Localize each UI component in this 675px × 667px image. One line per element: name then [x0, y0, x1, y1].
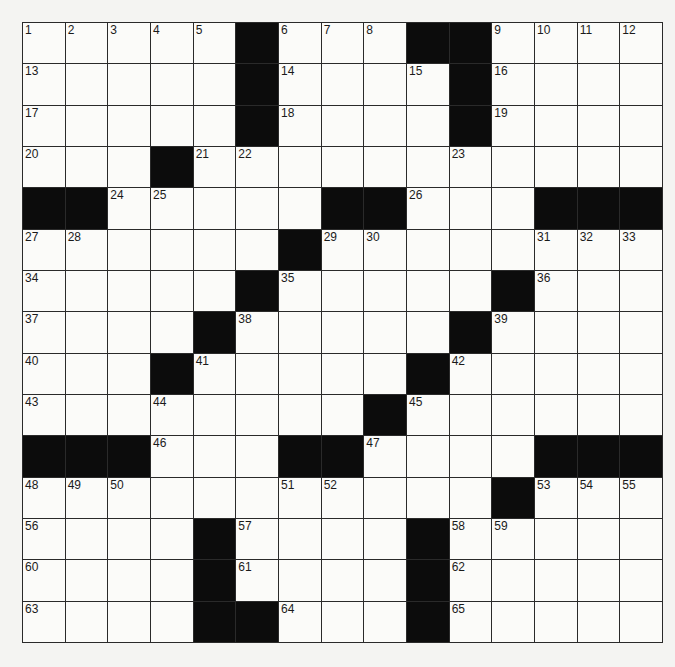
grid-cell[interactable]	[236, 478, 278, 518]
grid-cell[interactable]: 40	[23, 354, 65, 394]
grid-cell[interactable]	[578, 354, 620, 394]
grid-cell[interactable]	[66, 147, 108, 187]
grid-cell[interactable]	[450, 271, 492, 311]
grid-cell[interactable]: 27	[23, 230, 65, 270]
grid-cell[interactable]	[151, 478, 193, 518]
grid-cell[interactable]	[407, 271, 449, 311]
grid-cell[interactable]	[450, 478, 492, 518]
grid-cell[interactable]	[407, 230, 449, 270]
grid-cell[interactable]: 26	[407, 188, 449, 228]
grid-cell[interactable]	[322, 602, 364, 642]
grid-cell[interactable]	[450, 188, 492, 228]
grid-cell[interactable]	[194, 64, 236, 104]
grid-cell[interactable]: 64	[279, 602, 321, 642]
grid-cell[interactable]	[66, 602, 108, 642]
grid-cell[interactable]	[194, 106, 236, 146]
grid-cell[interactable]: 54	[578, 478, 620, 518]
grid-cell[interactable]: 31	[535, 230, 577, 270]
grid-cell[interactable]: 55	[620, 478, 662, 518]
grid-cell[interactable]	[578, 64, 620, 104]
grid-cell[interactable]: 63	[23, 602, 65, 642]
grid-cell[interactable]	[492, 188, 534, 228]
grid-cell[interactable]	[66, 64, 108, 104]
grid-cell[interactable]	[407, 147, 449, 187]
grid-cell[interactable]: 16	[492, 64, 534, 104]
grid-cell[interactable]	[322, 395, 364, 435]
grid-cell[interactable]	[620, 64, 662, 104]
grid-cell[interactable]	[535, 560, 577, 600]
grid-cell[interactable]	[322, 106, 364, 146]
grid-cell[interactable]	[578, 147, 620, 187]
grid-cell[interactable]: 14	[279, 64, 321, 104]
grid-cell[interactable]: 22	[236, 147, 278, 187]
grid-cell[interactable]	[492, 395, 534, 435]
grid-cell[interactable]	[492, 560, 534, 600]
grid-cell[interactable]: 4	[151, 23, 193, 63]
grid-cell[interactable]	[364, 271, 406, 311]
grid-cell[interactable]: 19	[492, 106, 534, 146]
grid-cell[interactable]	[279, 354, 321, 394]
grid-cell[interactable]	[492, 147, 534, 187]
grid-cell[interactable]	[194, 436, 236, 476]
grid-cell[interactable]	[364, 560, 406, 600]
grid-cell[interactable]	[620, 312, 662, 352]
grid-cell[interactable]	[108, 271, 150, 311]
grid-cell[interactable]: 28	[66, 230, 108, 270]
grid-cell[interactable]: 65	[450, 602, 492, 642]
grid-cell[interactable]	[407, 106, 449, 146]
grid-cell[interactable]	[108, 106, 150, 146]
grid-cell[interactable]	[108, 312, 150, 352]
grid-cell[interactable]: 7	[322, 23, 364, 63]
grid-cell[interactable]: 52	[322, 478, 364, 518]
grid-cell[interactable]: 57	[236, 519, 278, 559]
grid-cell[interactable]: 6	[279, 23, 321, 63]
grid-cell[interactable]: 24	[108, 188, 150, 228]
grid-cell[interactable]	[66, 395, 108, 435]
grid-cell[interactable]	[364, 602, 406, 642]
grid-cell[interactable]	[620, 519, 662, 559]
grid-cell[interactable]	[66, 106, 108, 146]
grid-cell[interactable]	[364, 519, 406, 559]
grid-cell[interactable]	[108, 519, 150, 559]
grid-cell[interactable]	[450, 436, 492, 476]
grid-cell[interactable]: 60	[23, 560, 65, 600]
grid-cell[interactable]: 33	[620, 230, 662, 270]
grid-cell[interactable]: 32	[578, 230, 620, 270]
grid-cell[interactable]	[108, 230, 150, 270]
grid-cell[interactable]	[194, 230, 236, 270]
grid-cell[interactable]: 41	[194, 354, 236, 394]
grid-cell[interactable]	[407, 312, 449, 352]
grid-cell[interactable]: 46	[151, 436, 193, 476]
grid-cell[interactable]: 53	[535, 478, 577, 518]
grid-cell[interactable]	[66, 271, 108, 311]
grid-cell[interactable]: 34	[23, 271, 65, 311]
grid-cell[interactable]	[620, 602, 662, 642]
grid-cell[interactable]: 25	[151, 188, 193, 228]
grid-cell[interactable]	[407, 436, 449, 476]
grid-cell[interactable]	[322, 312, 364, 352]
grid-cell[interactable]	[364, 106, 406, 146]
grid-cell[interactable]	[236, 354, 278, 394]
grid-cell[interactable]: 9	[492, 23, 534, 63]
grid-cell[interactable]	[151, 602, 193, 642]
grid-cell[interactable]: 10	[535, 23, 577, 63]
grid-cell[interactable]: 42	[450, 354, 492, 394]
grid-cell[interactable]	[108, 64, 150, 104]
grid-cell[interactable]	[492, 436, 534, 476]
grid-cell[interactable]: 12	[620, 23, 662, 63]
grid-cell[interactable]: 47	[364, 436, 406, 476]
grid-cell[interactable]: 45	[407, 395, 449, 435]
grid-cell[interactable]: 17	[23, 106, 65, 146]
grid-cell[interactable]	[364, 478, 406, 518]
grid-cell[interactable]: 58	[450, 519, 492, 559]
grid-cell[interactable]	[151, 64, 193, 104]
grid-cell[interactable]	[535, 602, 577, 642]
grid-cell[interactable]	[194, 478, 236, 518]
grid-cell[interactable]	[236, 395, 278, 435]
grid-cell[interactable]	[322, 354, 364, 394]
grid-cell[interactable]	[535, 147, 577, 187]
grid-cell[interactable]	[236, 230, 278, 270]
grid-cell[interactable]	[364, 354, 406, 394]
grid-cell[interactable]	[279, 147, 321, 187]
grid-cell[interactable]	[66, 312, 108, 352]
